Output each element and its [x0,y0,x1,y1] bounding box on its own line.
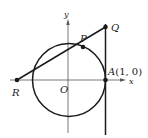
point-r [15,78,20,83]
point-a [103,78,108,83]
label-a-name: A [107,66,115,77]
origin-label: O [60,84,68,95]
label-a: A(1, 0) [107,66,142,77]
label-q: Q [111,22,119,33]
label-p: P [79,33,87,44]
label-r: R [11,87,20,98]
point-p [81,45,86,50]
x-axis-label: x [129,77,134,86]
segment-rq [17,27,106,80]
label-a-coords: (1, 0) [115,66,142,77]
point-q [103,25,108,30]
unit-circle-diagram: y x O P Q R A(1, 0) [0,0,148,138]
y-axis-label: y [63,10,69,19]
